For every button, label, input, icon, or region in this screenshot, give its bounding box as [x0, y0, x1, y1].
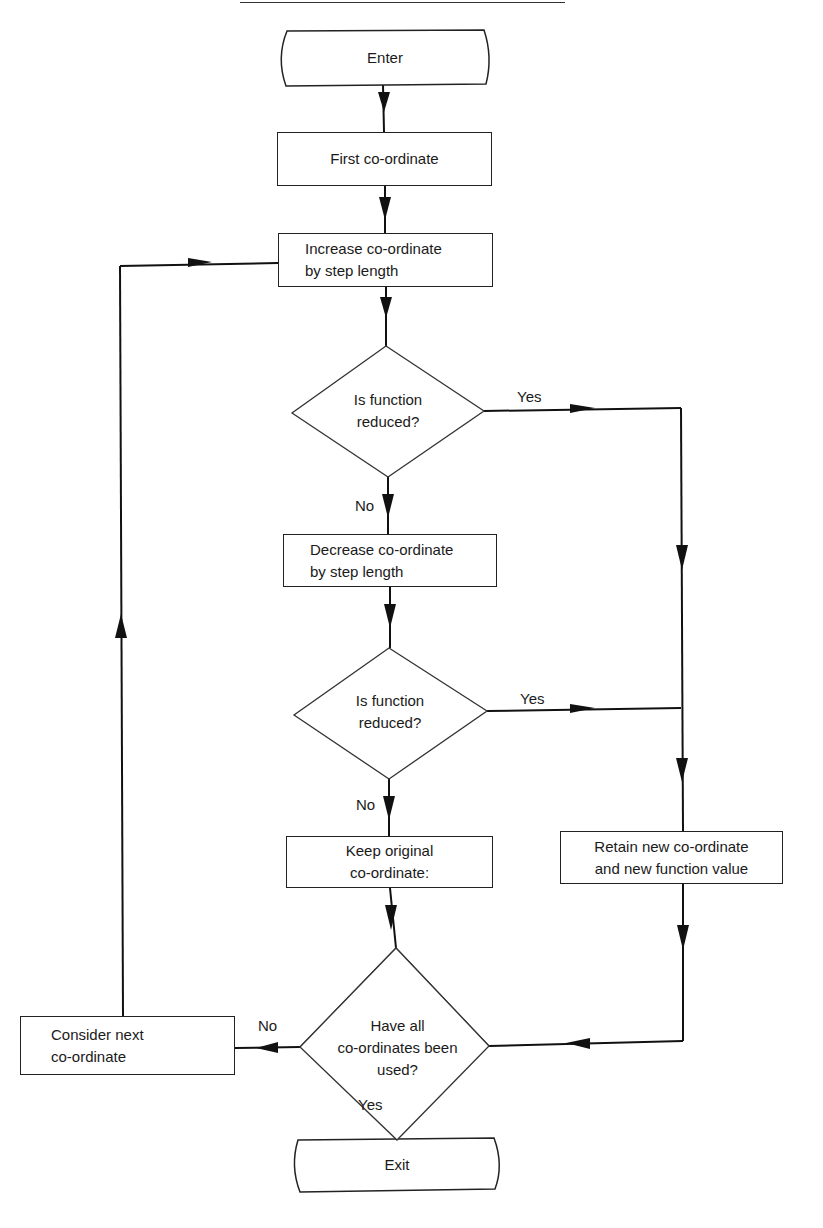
decision-2: Is function reduced?	[320, 690, 460, 734]
d1-no-label: No	[355, 497, 374, 514]
consider-label-line2: co-ordinate	[51, 1046, 126, 1068]
increase-label-line2: by step length	[305, 260, 398, 282]
exit-label: Exit	[384, 1154, 409, 1176]
decision-1-line2: reduced?	[318, 411, 458, 433]
retain-label-line1: Retain new co-ordinate	[594, 836, 748, 858]
keep-label-line1: Keep original	[346, 840, 434, 862]
d3-no-label: No	[258, 1017, 277, 1034]
consider-label-line1: Consider next	[51, 1024, 144, 1046]
d2-no-label: No	[356, 796, 375, 813]
retain-new-box: Retain new co-ordinate and new function …	[560, 831, 783, 884]
retain-label-line2: and new function value	[595, 858, 748, 880]
decision-3-line2: co-ordinates been	[315, 1037, 480, 1059]
enter-terminal: Enter	[280, 30, 490, 86]
enter-label: Enter	[367, 47, 403, 69]
keep-original-box: Keep original co-ordinate:	[286, 836, 493, 888]
increase-coordinate-box: Increase co-ordinate by step length	[278, 233, 493, 287]
decision-1-line1: Is function	[318, 389, 458, 411]
decrease-label-line2: by step length	[310, 561, 403, 583]
decision-3: Have all co-ordinates been used?	[315, 1015, 480, 1081]
decision-3-line3: used?	[315, 1059, 480, 1081]
first-coordinate-box: First co-ordinate	[277, 132, 492, 186]
decrease-coordinate-box: Decrease co-ordinate by step length	[283, 534, 497, 587]
decision-2-line2: reduced?	[320, 712, 460, 734]
first-coordinate-label: First co-ordinate	[330, 148, 438, 170]
d2-yes-label: Yes	[520, 690, 544, 707]
keep-label-line2: co-ordinate:	[350, 862, 429, 884]
exit-terminal: Exit	[292, 1139, 502, 1191]
increase-label-line1: Increase co-ordinate	[305, 238, 442, 260]
decision-3-line1: Have all	[315, 1015, 480, 1037]
d1-yes-label: Yes	[517, 388, 541, 405]
d3-yes-label: Yes	[358, 1096, 382, 1113]
consider-next-box: Consider next co-ordinate	[20, 1016, 235, 1075]
decision-1: Is function reduced?	[318, 389, 458, 433]
decrease-label-line1: Decrease co-ordinate	[310, 539, 453, 561]
decision-2-line1: Is function	[320, 690, 460, 712]
